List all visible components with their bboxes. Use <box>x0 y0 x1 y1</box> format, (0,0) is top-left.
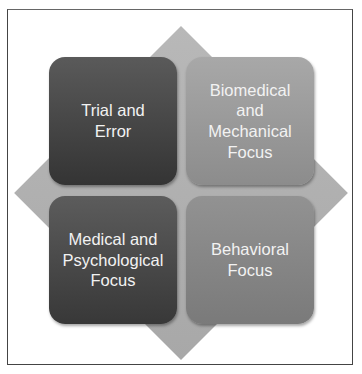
quadrant-label: Behavioral Focus <box>207 235 293 284</box>
quadrant-label: Trial and Error <box>77 96 149 145</box>
quadrant-behavioral: Behavioral Focus <box>186 196 314 324</box>
quadrant-trial-and-error: Trial and Error <box>49 57 177 185</box>
quadrant-biomedical-mechanical: Biomedical and Mechanical Focus <box>186 57 314 185</box>
quadrant-label: Biomedical and Mechanical Focus <box>204 76 295 167</box>
quadrant-label: Medical and Psychological Focus <box>59 225 168 295</box>
quadrant-medical-psychological: Medical and Psychological Focus <box>49 196 177 324</box>
